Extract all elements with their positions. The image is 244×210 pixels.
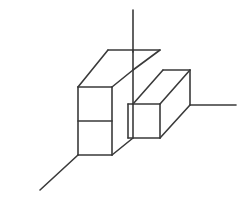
left-upper-front-face bbox=[78, 87, 112, 121]
figure-container bbox=[0, 0, 244, 210]
isometric-cubes-figure bbox=[0, 0, 244, 210]
left-lower-front-face bbox=[78, 121, 112, 155]
